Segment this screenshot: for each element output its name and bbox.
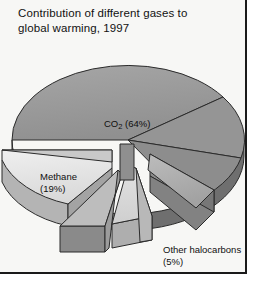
slice-label-other-halocarbons-name: Other halocarbons bbox=[163, 244, 241, 256]
slice-label-methane-pct: (19%) bbox=[40, 183, 77, 195]
page-rule-bottom bbox=[0, 272, 247, 274]
slice-label-methane: Methane (19%) bbox=[40, 171, 77, 194]
slice-label-other-halocarbons-pct: (5%) bbox=[163, 256, 241, 268]
page-rule-right bbox=[245, 0, 247, 274]
slice-label-co2-pct: (64%) bbox=[122, 118, 150, 129]
slice-label-methane-name: Methane bbox=[40, 171, 77, 183]
pie-chart-svg bbox=[0, 40, 246, 272]
figure-title-line2: global warming, 1997 bbox=[18, 21, 223, 36]
figure-title: Contribution of different gases to globa… bbox=[18, 6, 223, 36]
figure-title-line1: Contribution of different gases to bbox=[18, 6, 223, 21]
slice-label-co2-name: CO bbox=[104, 118, 118, 129]
pie-center-hub bbox=[120, 144, 134, 180]
slice-label-co2: CO2 (64%) bbox=[104, 118, 150, 133]
slice-label-other-halocarbons: Other halocarbons (5%) bbox=[163, 244, 241, 267]
scanned-page: Contribution of different gases to globa… bbox=[0, 0, 246, 272]
pie-chart: CO2 (64%) Methane (19%) Other halocarbon… bbox=[0, 40, 246, 272]
